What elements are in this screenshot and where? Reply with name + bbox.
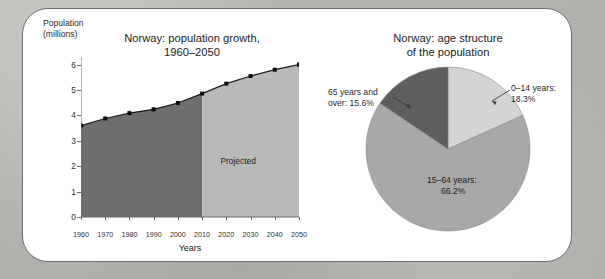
y-tick-mark	[77, 115, 81, 116]
x-tick-label: 2010	[194, 230, 210, 239]
pie-chart-title: Norway: age structure of the population	[348, 32, 548, 59]
line-chart-title: Norway: population growth, 1960–2050	[87, 32, 297, 59]
data-point-marker	[249, 74, 253, 78]
pie-chart-title-line2: of the population	[348, 46, 548, 60]
line-chart-title-line1: Norway: population growth,	[87, 32, 297, 46]
pie-slices-svg	[365, 66, 531, 232]
x-tick-mark	[129, 217, 130, 220]
x-tick-mark	[202, 217, 203, 220]
data-point-marker	[176, 101, 180, 105]
x-tick-label: 1980	[121, 230, 137, 239]
y-tick-mark	[77, 65, 81, 66]
x-tick-mark	[81, 217, 82, 220]
x-axis-title: Years	[81, 243, 299, 253]
y-tick-label: 4	[71, 110, 76, 120]
pie-label-65-line1: 65 years and	[328, 87, 378, 98]
y-tick-label: 6	[71, 60, 76, 70]
x-tick-mark	[154, 217, 155, 220]
x-tick-label: 2000	[170, 230, 186, 239]
x-tick-mark	[105, 217, 106, 220]
pie-chart-title-line1: Norway: age structure	[348, 32, 548, 46]
x-tick-mark	[275, 217, 276, 220]
pie-label-15-to-64: 15–64 years: 66.2%	[427, 175, 477, 197]
data-point-marker	[127, 111, 131, 115]
data-point-marker	[103, 116, 107, 120]
y-tick-label: 0	[71, 212, 76, 222]
pie-label-65-and-over: 65 years and over: 15.6%	[328, 87, 378, 109]
historical-area	[81, 94, 202, 217]
y-tick-mark	[77, 141, 81, 142]
figure-panel: Population (millions) Norway: population…	[22, 8, 572, 262]
data-point-marker	[200, 92, 204, 96]
y-tick-mark	[77, 90, 81, 91]
y-axis-title: Population (millions)	[43, 18, 84, 39]
x-tick-label: 2030	[243, 230, 259, 239]
y-tick-label: 1	[71, 187, 76, 197]
y-axis-title-line2: (millions)	[43, 29, 84, 40]
data-point-marker	[152, 107, 156, 111]
population-growth-chart: Population (millions) Norway: population…	[23, 9, 323, 262]
pie-label-014-line2: 18.3%	[511, 94, 556, 105]
y-axis-title-line1: Population	[43, 18, 84, 29]
pie-label-65-line2: over: 15.6%	[328, 98, 378, 109]
y-tick-label: 2	[71, 161, 76, 171]
pie-label-014-line1: 0–14 years:	[511, 83, 556, 94]
figure-root: Population (millions) Norway: population…	[0, 0, 605, 279]
age-structure-chart: Norway: age structure of the population …	[323, 9, 572, 262]
data-point-marker	[224, 82, 228, 86]
x-tick-mark	[299, 217, 300, 220]
pie-label-1564-line2: 66.2%	[427, 186, 477, 197]
x-tick-label: 1990	[146, 230, 162, 239]
x-tick-label: 2020	[218, 230, 234, 239]
projected-annotation: Projected	[220, 156, 255, 166]
y-tick-label: 5	[71, 85, 76, 95]
y-tick-mark	[77, 192, 81, 193]
line-chart-plot-area: 0123456 19601970198019902000201020202030…	[81, 57, 299, 225]
x-tick-label: 2050	[291, 230, 307, 239]
x-tick-label: 1970	[97, 230, 113, 239]
x-tick-mark	[178, 217, 179, 220]
y-tick-mark	[77, 166, 81, 167]
pie-label-1564-line1: 15–64 years:	[427, 175, 477, 186]
pie-label-0-to-14: 0–14 years: 18.3%	[511, 83, 556, 105]
x-tick-mark	[226, 217, 227, 220]
y-tick-label: 3	[71, 136, 76, 146]
x-tick-label: 1960	[73, 230, 89, 239]
x-tick-label: 2040	[267, 230, 283, 239]
x-tick-mark	[251, 217, 252, 220]
area-series-svg	[81, 57, 299, 225]
data-point-marker	[273, 68, 277, 72]
